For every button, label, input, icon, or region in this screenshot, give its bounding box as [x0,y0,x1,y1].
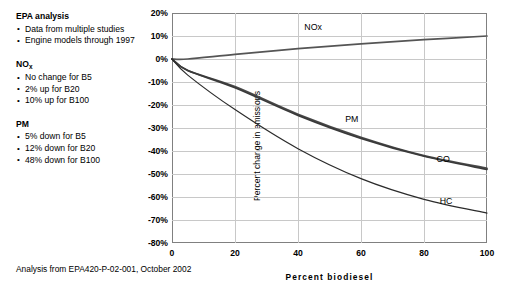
series-label-hc: HC [440,196,453,206]
y-axis-tick-label: 20% [128,8,168,18]
y-axis-tick-label: -50% [128,169,168,179]
series-line-nox [172,36,487,59]
plot-area: NOxPMCOHC [172,13,487,243]
x-axis-tick-labels: 020406080100 [172,248,487,262]
y-axis-tick-labels: 20%10%0%-10%-20%-30%-40%-50%-60%-70%-80% [128,13,168,243]
emissions-line-chart: Percent change in emissions 20%10%0%-10%… [0,0,509,290]
series-line-pm [172,59,487,168]
y-axis-tick-label: -70% [128,215,168,225]
y-axis-tick-label: -20% [128,100,168,110]
x-axis-tick-label: 0 [152,248,192,258]
y-axis-tick-label: -10% [128,77,168,87]
series-line-co [172,59,487,169]
series-label-pm: PM [345,114,358,124]
series-label-co: CO [437,154,450,164]
y-axis-tick-label: -40% [128,146,168,156]
x-axis-tick-label: 20 [215,248,255,258]
x-axis-tick-label: 40 [278,248,318,258]
x-axis-tick-label: 60 [341,248,381,258]
x-axis-title: Percent biodiesel [172,272,487,282]
y-axis-tick-label: -80% [128,238,168,248]
series-label-nox: NOx [304,22,322,32]
series-lines [172,13,487,243]
y-axis-tick-label: 0% [128,54,168,64]
x-axis-tick-label: 80 [404,248,444,258]
x-axis-tick-label: 100 [467,248,507,258]
y-axis-tick-label: 10% [128,31,168,41]
y-axis-tick-label: -60% [128,192,168,202]
y-axis-tick-label: -30% [128,123,168,133]
chart-figure: EPA analysis Data from multiple studies … [0,0,509,290]
